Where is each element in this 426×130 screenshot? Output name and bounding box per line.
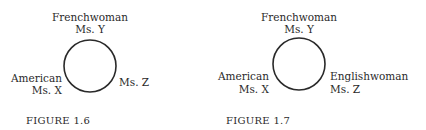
top-nationality-label: Frenchwoman bbox=[52, 11, 128, 23]
right-name-label: Ms. Z bbox=[119, 76, 149, 88]
right-name-label: Ms. Z bbox=[330, 83, 360, 95]
left-name-label: Ms. X bbox=[32, 84, 62, 96]
figure-1-6: Frenchwoman Ms. Y American Ms. X Ms. Z F… bbox=[0, 0, 213, 130]
left-nationality-label: American bbox=[218, 70, 269, 82]
figure-caption: FIGURE 1.7 bbox=[226, 115, 290, 126]
top-nationality-label: Frenchwoman bbox=[261, 11, 337, 23]
left-nationality-label: American bbox=[11, 72, 62, 84]
right-nationality-label: Englishwoman bbox=[330, 70, 408, 82]
table-circle bbox=[273, 38, 325, 90]
figure-caption: FIGURE 1.6 bbox=[26, 115, 90, 126]
top-name-label: Ms. Y bbox=[284, 23, 314, 35]
left-name-label: Ms. X bbox=[239, 83, 269, 95]
top-name-label: Ms. Y bbox=[75, 23, 105, 35]
table-circle bbox=[64, 40, 116, 92]
figure-1-7: Frenchwoman Ms. Y American Ms. X English… bbox=[213, 0, 426, 130]
